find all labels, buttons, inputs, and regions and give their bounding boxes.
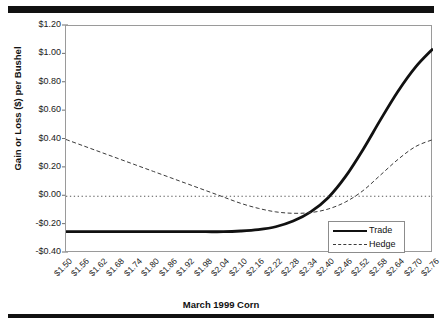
legend-label-hedge: Hedge bbox=[369, 239, 396, 249]
legend-label-trade: Trade bbox=[369, 225, 392, 235]
legend-line-swatch-trade bbox=[333, 230, 367, 232]
chart-legend: Trade Hedge bbox=[328, 221, 405, 253]
legend-line-swatch-hedge bbox=[333, 244, 367, 245]
x-axis-tick-labels: $1.50$1.56$1.62$1.68$1.74$1.80$1.86$1.92… bbox=[0, 0, 442, 324]
legend-entry-hedge: Hedge bbox=[329, 238, 406, 252]
legend-entry-trade: Trade bbox=[329, 224, 406, 238]
chart-figure: Gain or Loss ($) per Bushel $1.20$1.00$0… bbox=[0, 0, 442, 324]
x-axis-title: March 1999 Corn bbox=[0, 299, 442, 310]
